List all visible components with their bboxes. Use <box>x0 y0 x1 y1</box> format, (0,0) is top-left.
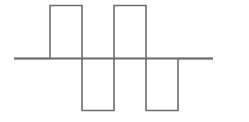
square-wave-trace <box>14 6 213 111</box>
square-wave-figure: © Cengage Learning®. All Rights Reserved… <box>0 0 249 122</box>
square-wave-plot <box>0 0 249 122</box>
